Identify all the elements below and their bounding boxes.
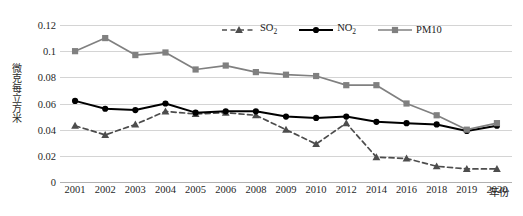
x-tick-label: 2005 <box>185 184 206 195</box>
legend-label: SO2 <box>260 22 277 36</box>
y-axis-tick-labels: 00.020.040.060.080.10.12 <box>20 0 56 216</box>
x-tick-label: 2002 <box>95 184 116 195</box>
triangle-marker <box>342 119 350 126</box>
x-axis-title: 年份 <box>489 184 509 199</box>
x-axis-tick-labels: 2001200220032004200520062008200920102012… <box>60 184 512 202</box>
square-marker <box>253 69 259 75</box>
circle-marker <box>313 26 319 32</box>
y-tick-label: 0.02 <box>20 150 56 161</box>
square-marker <box>313 73 319 79</box>
square-marker <box>72 48 78 54</box>
x-tick-label: 2001 <box>65 184 86 195</box>
legend-item-no2[interactable]: NO2 <box>299 22 356 36</box>
triangle-marker <box>131 121 139 128</box>
circle-marker <box>253 108 259 114</box>
circle-marker <box>313 115 319 121</box>
legend-swatch-triangle-icon <box>222 24 256 36</box>
y-tick-label: 0.04 <box>20 124 56 135</box>
x-tick-label: 2018 <box>426 184 447 195</box>
circle-marker <box>434 121 440 127</box>
circle-marker <box>102 106 108 112</box>
air-quality-line-chart: 微克每立方米 00.020.040.060.080.10.12 20012002… <box>0 0 523 216</box>
y-tick-label: 0 <box>20 177 56 188</box>
chart-legend: SO2NO2PM10 <box>222 21 442 38</box>
circle-marker <box>373 119 379 125</box>
legend-swatch-square-icon <box>378 24 412 36</box>
square-marker <box>343 82 349 88</box>
y-tick-label: 0.06 <box>20 98 56 109</box>
circle-marker <box>193 110 199 116</box>
legend-label-main: NO <box>337 22 352 33</box>
legend-swatch-circle-icon <box>299 24 333 36</box>
circle-marker <box>223 108 229 114</box>
square-marker <box>283 72 289 78</box>
x-tick-label: 2008 <box>245 184 266 195</box>
x-tick-label: 2009 <box>276 184 297 195</box>
circle-marker <box>343 113 349 119</box>
series-layer <box>60 25 512 182</box>
y-tick-label: 0.1 <box>20 46 56 57</box>
legend-label-main: SO <box>260 22 273 33</box>
x-tick-label: 2010 <box>306 184 327 195</box>
x-tick-label: 2014 <box>366 184 387 195</box>
gridline <box>60 182 512 183</box>
x-tick-label: 2003 <box>125 184 146 195</box>
legend-item-pm10[interactable]: PM10 <box>378 24 442 36</box>
circle-marker <box>162 100 168 106</box>
y-tick-label: 0.08 <box>20 72 56 83</box>
square-marker <box>102 35 108 41</box>
x-tick-label: 2012 <box>336 184 357 195</box>
circle-marker <box>283 113 289 119</box>
plot-area <box>60 25 512 182</box>
square-marker <box>403 100 409 106</box>
legend-label-sub: 2 <box>352 28 356 37</box>
circle-marker <box>132 107 138 113</box>
x-tick-label: 2019 <box>456 184 477 195</box>
y-tick-label: 0.12 <box>20 20 56 31</box>
square-marker <box>494 120 500 126</box>
square-marker <box>464 127 470 133</box>
x-tick-label: 2006 <box>215 184 236 195</box>
square-marker <box>392 26 398 32</box>
legend-label: NO2 <box>337 22 356 36</box>
square-marker <box>373 82 379 88</box>
square-marker <box>223 62 229 68</box>
x-tick-label: 2016 <box>396 184 417 195</box>
series-line <box>75 111 497 169</box>
legend-label: PM10 <box>416 24 442 35</box>
circle-marker <box>403 120 409 126</box>
square-marker <box>193 66 199 72</box>
legend-item-so2[interactable]: SO2 <box>222 22 277 36</box>
circle-marker <box>72 98 78 104</box>
legend-label-sub: 2 <box>273 28 277 37</box>
triangle-marker <box>71 122 79 129</box>
square-marker <box>434 112 440 118</box>
square-marker <box>162 49 168 55</box>
triangle-marker <box>403 155 411 162</box>
square-marker <box>132 52 138 58</box>
x-tick-label: 2004 <box>155 184 176 195</box>
